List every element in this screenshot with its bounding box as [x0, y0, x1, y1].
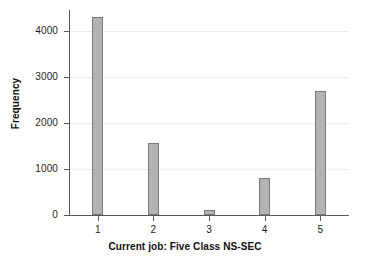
x-axis-tick-mark	[153, 216, 154, 221]
x-axis-tick-mark	[98, 216, 99, 221]
x-axis-tick-label: 5	[305, 224, 335, 235]
y-axis-tick-mark	[64, 215, 70, 216]
x-axis-tick-label: 2	[138, 224, 168, 235]
x-axis-tick-label: 3	[194, 224, 224, 235]
y-axis-title: Frequency	[10, 54, 21, 154]
gridline	[71, 31, 348, 32]
bar	[259, 178, 270, 215]
bar	[92, 17, 103, 215]
bar	[315, 91, 326, 215]
gridline	[71, 169, 348, 170]
y-axis-tick-mark	[64, 123, 70, 124]
x-axis-tick-label: 1	[83, 224, 113, 235]
bar	[204, 210, 215, 215]
x-axis-tick-label: 4	[250, 224, 280, 235]
bar	[148, 143, 159, 215]
y-axis-tick-label: 0	[52, 210, 58, 220]
x-axis-title: Current job: Five Class NS-SEC	[0, 241, 370, 252]
x-axis-tick-mark	[320, 216, 321, 221]
chart-figure: Frequency 01000200030004000 12345 Curren…	[0, 0, 370, 272]
y-axis-tick-label: 4000	[35, 26, 58, 36]
y-axis-line	[69, 10, 70, 216]
gridline	[71, 77, 348, 78]
y-axis-tick-label: 2000	[35, 118, 58, 128]
y-axis-tick-mark	[64, 77, 70, 78]
y-axis-tick-label: 3000	[35, 72, 58, 82]
y-axis-tick-mark	[64, 169, 70, 170]
x-axis-tick-mark	[265, 216, 266, 221]
gridline	[71, 123, 348, 124]
x-axis-tick-mark	[209, 216, 210, 221]
y-axis-tick-label: 1000	[35, 164, 58, 174]
y-axis-tick-mark	[64, 31, 70, 32]
